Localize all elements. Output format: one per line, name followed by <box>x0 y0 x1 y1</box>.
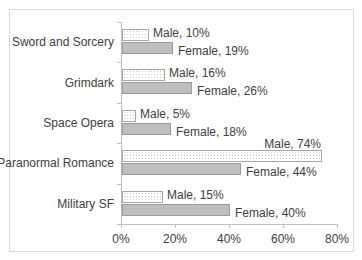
bar-male[interactable] <box>122 191 163 203</box>
y-axis-tick <box>117 103 121 104</box>
data-label-male: Male, 15% <box>167 188 224 202</box>
bar-male[interactable] <box>122 150 322 162</box>
bar-female[interactable] <box>122 82 192 94</box>
data-label-female: Female, 26% <box>197 84 268 98</box>
y-axis-tick <box>117 143 121 144</box>
y-axis-tick <box>117 22 121 23</box>
category-label: Grimdark <box>65 76 114 90</box>
y-axis-tick <box>117 184 121 185</box>
category-label: Space Opera <box>43 116 114 130</box>
bar-female[interactable] <box>122 163 241 175</box>
x-axis-tick-label: 20% <box>163 232 187 246</box>
x-axis-tick <box>175 224 176 228</box>
data-label-male: Male, 16% <box>169 66 226 80</box>
category-label: Paranormal Romance <box>0 156 114 170</box>
data-label-female: Female, 19% <box>178 44 249 58</box>
x-axis-tick-label: 40% <box>217 232 241 246</box>
bar-male[interactable] <box>122 29 149 41</box>
bar-female[interactable] <box>122 123 171 135</box>
bar-female[interactable] <box>122 42 173 54</box>
x-axis-tick-label: 0% <box>112 232 129 246</box>
category-label: Military SF <box>57 197 114 211</box>
data-label-female: Female, 40% <box>235 206 306 220</box>
bar-male[interactable] <box>122 110 136 122</box>
data-label-female: Female, 44% <box>246 165 317 179</box>
x-axis-tick-label: 60% <box>271 232 295 246</box>
data-label-male: Male, 10% <box>153 26 210 40</box>
data-label-male: Male, 74% <box>264 137 321 151</box>
bar-male[interactable] <box>122 69 165 81</box>
x-axis-tick <box>121 224 122 228</box>
data-label-male: Male, 5% <box>140 107 190 121</box>
category-label: Sword and Sorcery <box>12 35 114 49</box>
x-axis-tick <box>337 224 338 228</box>
x-axis-tick-label: 80% <box>325 232 349 246</box>
x-axis-tick <box>229 224 230 228</box>
y-axis-tick <box>117 62 121 63</box>
data-label-female: Female, 18% <box>176 125 247 139</box>
x-axis-tick <box>283 224 284 228</box>
bar-female[interactable] <box>122 204 230 216</box>
